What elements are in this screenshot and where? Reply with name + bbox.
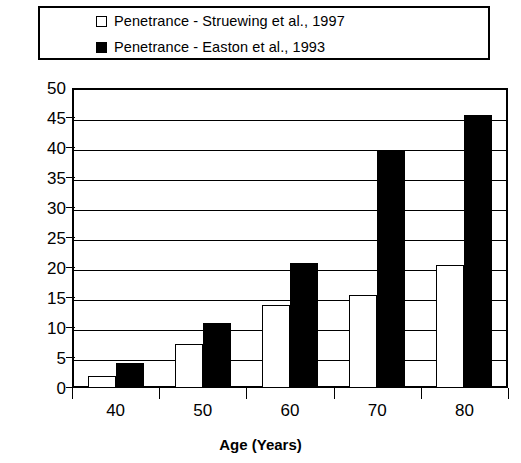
- bar-60-series1: [262, 305, 290, 388]
- bar-40-series2: [116, 363, 144, 388]
- legend-item-struewing: Penetrance - Struewing et al., 1997: [40, 8, 488, 34]
- bar-40-series1: [88, 376, 116, 388]
- x-axis-tick-label: 80: [434, 402, 494, 419]
- legend-label-easton: Penetrance - Easton et al., 1993: [114, 40, 325, 55]
- y-axis-tickmark: [66, 357, 75, 358]
- bar-70-series1: [349, 295, 377, 388]
- y-axis-tick-label: 50: [20, 80, 66, 97]
- x-axis-tickmark: [421, 388, 422, 399]
- y-axis-labels: 05101520253035404550: [10, 88, 66, 388]
- chart-legend: Penetrance - Struewing et al., 1997 Pene…: [38, 6, 490, 60]
- y-axis-tick-label: 30: [20, 200, 66, 217]
- bar-80-series1: [436, 265, 464, 388]
- y-axis-tick-label: 5: [20, 350, 66, 367]
- bar-60-series2: [290, 263, 318, 388]
- y-axis-tick-label: 10: [20, 320, 66, 337]
- hollow-square-icon: [96, 16, 107, 27]
- x-axis-labels: 4050607080: [72, 392, 508, 422]
- x-axis-tickmark: [72, 388, 73, 399]
- y-axis-tickmark: [66, 237, 75, 238]
- bar-50-series1: [175, 344, 203, 388]
- legend-label-struewing: Penetrance - Struewing et al., 1997: [114, 14, 345, 29]
- y-axis-tick-label: 35: [20, 170, 66, 187]
- y-axis-tickmark: [66, 207, 75, 208]
- x-axis-tickmark: [334, 388, 335, 399]
- x-axis-tickmark: [508, 388, 509, 399]
- filled-square-icon: [96, 42, 107, 53]
- x-axis-tick-label: 60: [260, 402, 320, 419]
- y-axis-tick-label: 40: [20, 140, 66, 157]
- x-axis-tick-label: 40: [86, 402, 146, 419]
- y-axis-tickmark: [66, 297, 75, 298]
- x-axis-tickmark: [159, 388, 160, 399]
- bar-50-series2: [203, 323, 231, 388]
- y-axis-tickmark: [66, 387, 75, 388]
- y-axis-tickmark: [66, 147, 75, 148]
- y-axis-tickmark: [66, 117, 75, 118]
- bar-80-series2: [464, 115, 492, 388]
- y-axis-tickmark: [66, 267, 75, 268]
- bar-70-series2: [377, 150, 405, 388]
- y-axis-tick-label: 20: [20, 260, 66, 277]
- x-axis-tickmark: [246, 388, 247, 399]
- y-axis-tickmark: [66, 327, 75, 328]
- x-axis-title: Age (Years): [0, 437, 521, 452]
- x-axis-tick-label: 70: [347, 402, 407, 419]
- y-axis-tick-label: 0: [20, 380, 66, 397]
- x-axis-tick-label: 50: [173, 402, 233, 419]
- y-axis-tick-label: 25: [20, 230, 66, 247]
- y-axis-tick-label: 15: [20, 290, 66, 307]
- y-axis-tick-label: 45: [20, 110, 66, 127]
- y-axis-tickmark: [66, 177, 75, 178]
- bars-layer: [72, 88, 508, 388]
- legend-item-easton: Penetrance - Easton et al., 1993: [40, 34, 488, 60]
